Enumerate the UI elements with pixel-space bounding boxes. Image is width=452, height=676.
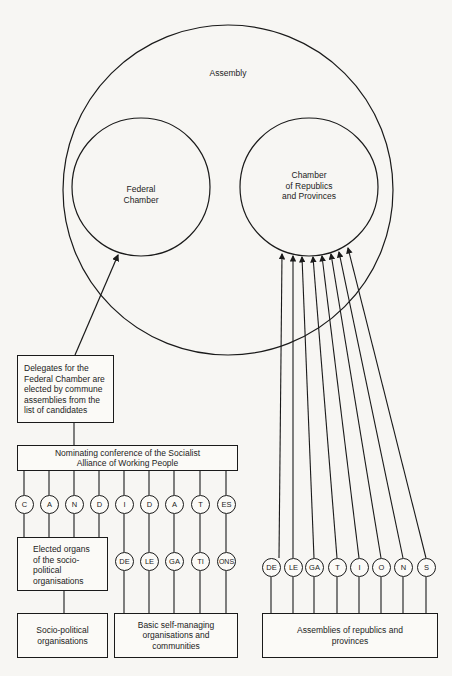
left-delegations-node-le: LE bbox=[140, 552, 159, 571]
republics-chamber-label: Chamber of Republics and Provinces bbox=[264, 170, 354, 202]
assembly-label: Assembly bbox=[198, 68, 258, 79]
right-delegations-node-de: DE bbox=[262, 558, 281, 577]
left-delegations-node-ons: ONS bbox=[217, 552, 236, 571]
candidates-node-c: C bbox=[15, 495, 34, 514]
candidates-node-d2: D bbox=[140, 495, 159, 514]
right-delegations-node-o: O bbox=[372, 558, 391, 577]
delegates-box: Delegates for the Federal Chamber are el… bbox=[17, 355, 114, 423]
candidates-node-d: D bbox=[90, 495, 109, 514]
assemblies-republics-box: Assemblies of republics and provinces bbox=[262, 613, 438, 658]
left-delegations-node-ti: TI bbox=[191, 552, 210, 571]
right-delegations-node-le: LE bbox=[284, 558, 303, 577]
nominating-conference-box: Nominating conference of the Socialist A… bbox=[17, 445, 238, 471]
elected-organs-box: Elected organs of the socio-political or… bbox=[17, 537, 108, 591]
basic-self-managing-box: Basic self-managing organisations and co… bbox=[114, 613, 238, 658]
candidates-node-i: I bbox=[115, 495, 134, 514]
candidates-node-es: ES bbox=[217, 495, 236, 514]
candidates-node-n: N bbox=[65, 495, 84, 514]
socio-political-box: Socio-political organisations bbox=[17, 613, 108, 658]
right-delegations-node-s: S bbox=[417, 558, 436, 577]
left-delegations-node-ga: GA bbox=[165, 552, 184, 571]
federal-chamber-label: Federal Chamber bbox=[111, 184, 171, 205]
right-delegations-node-i: I bbox=[350, 558, 369, 577]
candidates-node-a2: A bbox=[165, 495, 184, 514]
right-delegations-node-ga: GA bbox=[305, 558, 324, 577]
left-delegations-node-de: DE bbox=[115, 552, 134, 571]
candidates-node-a: A bbox=[40, 495, 59, 514]
right-delegations-node-t: T bbox=[328, 558, 347, 577]
candidates-node-t: T bbox=[191, 495, 210, 514]
right-delegations-node-n: N bbox=[394, 558, 413, 577]
